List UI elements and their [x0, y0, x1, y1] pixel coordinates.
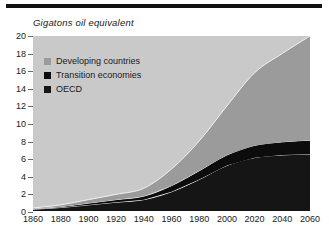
x-tick-label: 2040: [272, 214, 292, 224]
y-tick-label: 12: [16, 101, 26, 111]
legend-item-label: OECD: [56, 84, 82, 94]
y-tick-label: 16: [16, 66, 26, 76]
legend-swatch-icon: [44, 72, 51, 79]
y-tick-label: 18: [16, 49, 26, 59]
y-tick-label: 2: [21, 189, 26, 199]
x-tick-label: 2060: [300, 214, 320, 224]
x-tick-label: 2000: [217, 214, 237, 224]
legend-item-label: Developing countries: [56, 56, 140, 66]
chart-axis-title: Gigatons oil equivalent: [33, 17, 134, 28]
x-tick-label: 1920: [106, 214, 126, 224]
legend-item-label: Transition economies: [56, 70, 141, 80]
x-tick-label: 1960: [161, 214, 181, 224]
y-tick-label: 14: [16, 84, 26, 94]
header-rule: [6, 4, 322, 8]
x-tick-label: 1940: [134, 214, 154, 224]
y-tick-mark: [28, 212, 33, 213]
legend-item: OECD: [44, 83, 141, 95]
x-tick-label: 1880: [51, 214, 71, 224]
x-tick-label: 1980: [189, 214, 209, 224]
legend-swatch-icon: [44, 58, 51, 65]
legend-swatch-icon: [44, 86, 51, 93]
y-tick-label: 4: [21, 172, 26, 182]
y-tick-label: 10: [16, 119, 26, 129]
legend-item: Developing countries: [44, 55, 141, 67]
legend-item: Transition economies: [44, 69, 141, 81]
y-tick-label: 20: [16, 31, 26, 41]
y-tick-label: 6: [21, 154, 26, 164]
y-axis: 02468101214161820: [0, 30, 30, 218]
y-tick-label: 8: [21, 137, 26, 147]
x-tick-label: 1900: [78, 214, 98, 224]
x-tick-label: 2020: [245, 214, 265, 224]
x-axis: 1860188019001920194019601980200020202040…: [0, 214, 329, 230]
x-tick-label: 1860: [23, 214, 43, 224]
chart-legend: Developing countriesTransition economies…: [44, 55, 141, 97]
